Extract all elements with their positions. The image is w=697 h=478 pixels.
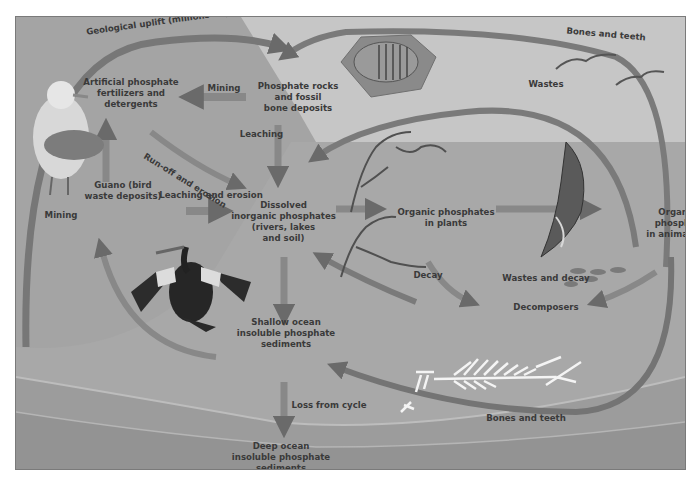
label-phosphate-rocks: Phosphate rocks and fossil bone deposits [248, 81, 348, 114]
label-artificial-fertilizers: Artificial phosphate fertilizers and det… [76, 77, 186, 110]
phosphorus-cycle-diagram: Geological uplift (millions of years) Bo… [15, 16, 686, 470]
label-wastes-and-decay: Wastes and decay [501, 273, 591, 284]
label-shallow-ocean: Shallow ocean insoluble phosphate sedime… [226, 317, 346, 350]
label-mining-top: Mining [199, 83, 249, 94]
label-bones-and-teeth-bottom: Bones and teeth [481, 413, 571, 424]
label-guano: Guano (bird waste deposits) [78, 180, 168, 202]
label-organic-animals: Organic phospha in animals [616, 207, 686, 240]
label-dissolved-phosphates: Dissolved inorganic phosphates (rivers, … [221, 200, 346, 244]
label-decomposers: Decomposers [501, 302, 591, 313]
label-leaching: Leaching [234, 129, 289, 140]
label-mining-left: Mining [36, 210, 86, 221]
label-wastes: Wastes [516, 79, 576, 90]
label-deep-ocean: Deep ocean insoluble phosphate sediments [206, 441, 356, 470]
label-organic-plants: Organic phosphates in plants [396, 207, 496, 229]
label-decay: Decay [408, 270, 448, 281]
label-loss-from-cycle: Loss from cycle [284, 400, 374, 411]
